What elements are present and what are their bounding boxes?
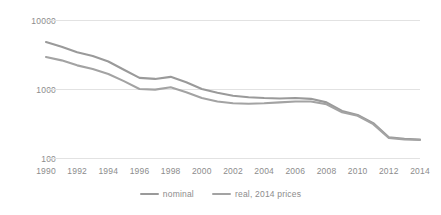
x-tick-label-1996: 1996 [130,166,150,176]
legend-item-real[interactable]: real, 2014 prices [212,189,301,199]
x-tick-label-1998: 1998 [161,166,181,176]
x-tick-label-2002: 2002 [223,166,243,176]
line-chart: 10000 1000 100 1990 1992 1994 1996 1998 … [0,0,441,215]
gridline-100 [46,158,420,159]
legend-label-real: real, 2014 prices [235,189,301,199]
x-tick-label-1990: 1990 [36,166,56,176]
series-line-real [46,57,420,140]
legend-swatch-nominal [140,193,159,195]
legend-item-nominal[interactable]: nominal [140,189,194,199]
x-tick-label-1994: 1994 [98,166,118,176]
x-tick-label-1992: 1992 [67,166,87,176]
x-tick-label-2006: 2006 [285,166,305,176]
legend-label-nominal: nominal [163,189,194,199]
series-container [46,20,420,158]
x-tick-label-2000: 2000 [192,166,212,176]
x-tick-label-2010: 2010 [348,166,368,176]
x-tick-label-2008: 2008 [317,166,337,176]
series-line-nominal [46,42,420,140]
x-tick-label-2004: 2004 [254,166,274,176]
chart-legend: nominal real, 2014 prices [0,189,441,199]
plot-area [46,20,420,158]
legend-swatch-real [212,193,231,195]
x-tick-label-2014: 2014 [410,166,430,176]
x-tick-label-2012: 2012 [379,166,399,176]
